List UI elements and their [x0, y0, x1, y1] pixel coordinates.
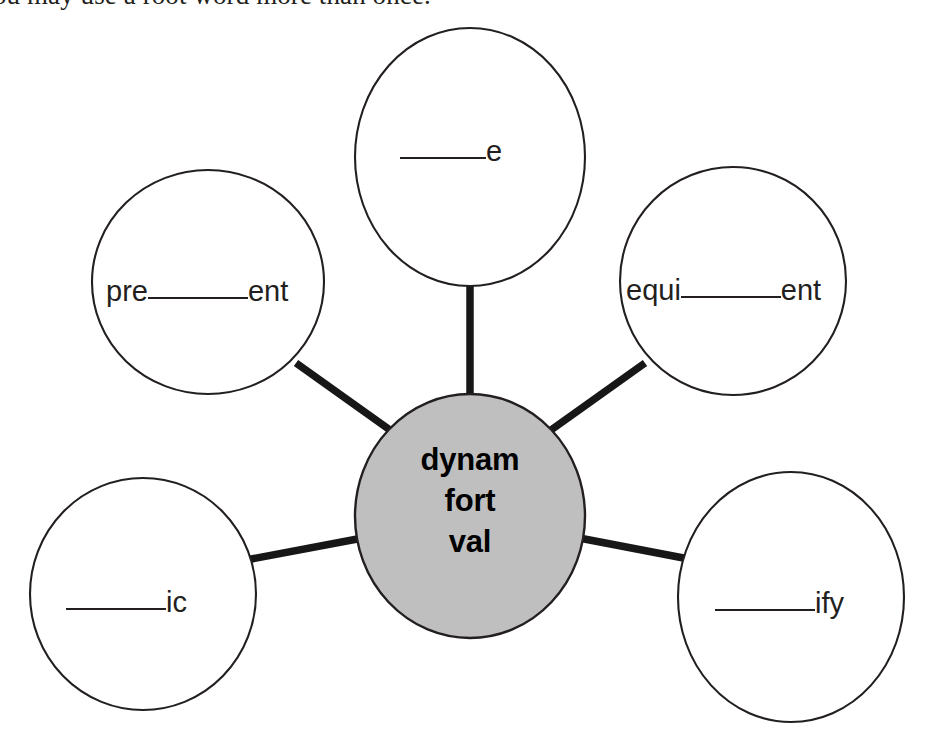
node-suffix-top: e [486, 135, 502, 167]
connector-center-to-lower-left [246, 537, 368, 560]
node-suffix-lower-right: ify [815, 587, 844, 619]
node-label-lower-left: ic [66, 588, 187, 617]
center-root-word-1: dynam [355, 440, 585, 481]
node-label-upper-right: equient [626, 276, 821, 305]
connector-center-to-lower-right [574, 537, 694, 560]
center-root-word-2: fort [355, 481, 585, 522]
node-suffix-lower-left: ic [166, 586, 187, 618]
worksheet-page: You may use a root word more than once. … [0, 0, 926, 747]
node-prefix-upper-right: equi [626, 274, 681, 306]
node-label-upper-left: preent [106, 277, 288, 306]
node-blank-upper-right[interactable] [681, 296, 781, 298]
node-blank-top[interactable] [400, 157, 486, 159]
center-root-word-3: val [355, 522, 585, 563]
connector-center-to-upper-left [296, 363, 404, 440]
connector-center-to-upper-right [537, 363, 645, 440]
node-blank-lower-left[interactable] [66, 608, 166, 610]
node-suffix-upper-right: ent [781, 274, 821, 306]
node-blank-lower-right[interactable] [715, 609, 815, 611]
node-suffix-upper-left: ent [248, 275, 288, 307]
node-blank-upper-left[interactable] [148, 297, 248, 299]
word-web-canvas [0, 0, 926, 747]
node-prefix-upper-left: pre [106, 275, 148, 307]
center-root-words-label: dynam fort val [355, 440, 585, 563]
node-label-top: e [400, 137, 502, 166]
node-label-lower-right: ify [715, 589, 844, 618]
